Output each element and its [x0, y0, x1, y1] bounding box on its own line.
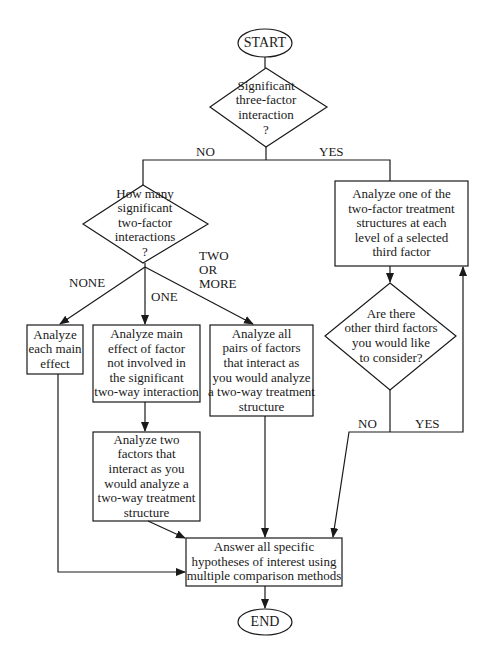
decision-three-factor-label: Significant three-factor interaction ?	[216, 76, 316, 140]
box-answer-hypotheses-label: Answer all specific hypotheses of intere…	[184, 539, 344, 585]
start-label: START	[238, 34, 292, 52]
edge-label-three-factor-no: NO	[196, 145, 215, 159]
edge-q1-no-branch	[143, 160, 266, 185]
end-label: END	[238, 613, 292, 631]
box-analyze-main-effects-label: Analyze each main effect	[27, 327, 83, 372]
box-analyze-all-pairs-label: Analyze all pairs of factors that intera…	[208, 326, 315, 415]
edge-q3-no	[333, 432, 390, 537]
edge-label-three-factor-yes: YES	[319, 145, 344, 159]
edge-label-other-third-no: NO	[358, 417, 377, 431]
box-analyze-per-level-label: Analyze one of the two-factor treatment …	[335, 182, 468, 265]
edge-q1-yes-branch	[266, 160, 390, 181]
edge-label-two-factor-none: NONE	[69, 276, 105, 290]
edge-b2-to-final	[148, 521, 185, 538]
edge-label-two-factor-one: ONE	[151, 290, 178, 304]
flowchart: START Significant three-factor interacti…	[0, 0, 492, 663]
edge-label-two-factor-two-or-more: TWO OR MORE	[199, 249, 237, 291]
box-analyze-two-factors-label: Analyze two factors that interact as you…	[93, 433, 200, 520]
decision-two-factor-label: How many significant two-factor interact…	[95, 186, 195, 260]
box-analyze-uninvolved-factor-label: Analyze main effect of factor not involv…	[93, 326, 200, 401]
edge-label-other-third-yes: YES	[415, 417, 440, 431]
decision-other-third-factors-label: Are there other third factors you would …	[335, 305, 447, 367]
